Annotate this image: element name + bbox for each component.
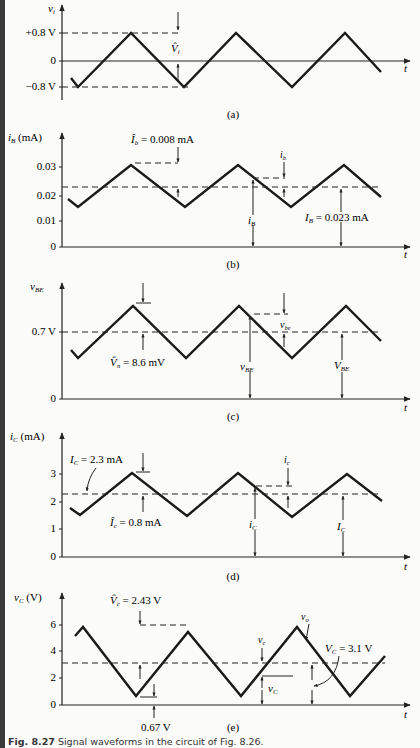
panel-d: iC (mA) 3 2 1 0 IC = 2.3 mA Îc = 0.8 mA …: [10, 430, 408, 583]
t-label-c: t: [404, 401, 408, 413]
tick-b-1: 0.02: [37, 189, 56, 201]
t-label-d: t: [404, 560, 408, 572]
tick-e-0: 6: [51, 618, 57, 630]
tick-e-2: 2: [51, 671, 57, 683]
Vc-peak-label: V̂c = 2.43 V: [110, 594, 161, 608]
tick-c-0: 0.7 V: [32, 325, 56, 337]
tick-a-2: −0.8 V: [26, 80, 57, 92]
panel-label-a: (a): [227, 108, 240, 121]
panel-label-e: (e): [227, 721, 240, 734]
tick-c-1: 0: [51, 392, 57, 404]
waveform-line: [70, 473, 382, 517]
vC-label: vC: [268, 682, 278, 696]
vbe-label: vbe: [280, 319, 291, 331]
tick-d-3: 0: [51, 550, 57, 562]
y-axis-label-a: vi: [48, 2, 55, 16]
vBE-label: vBE: [240, 360, 254, 374]
t-label-a: t: [404, 62, 408, 74]
VC-dc-label: VC = 3.1 V: [325, 642, 372, 656]
tick-b-2: 0.01: [37, 214, 56, 226]
panel-b: iB (mA) 0.03 0.02 0.01 0 Îb = 0.008 mA i…: [8, 131, 408, 271]
t-label-b: t: [404, 248, 408, 260]
y-axis-label-b: iB (mA): [8, 131, 42, 145]
vpi-label: V̂π = 8.6 mV: [110, 356, 165, 370]
signal-waveforms-figure: vi +0.8 V 0 −0.8 V V̂i t (a) iB (mA) 0.0…: [0, 0, 420, 748]
waveform-line: [71, 33, 381, 87]
vo-label: vo: [301, 611, 309, 623]
tick-a-1: 0: [51, 54, 57, 66]
ib-label: ib: [280, 149, 287, 161]
tick-b-0: 0.03: [37, 160, 57, 172]
panel-label-c: (c): [227, 410, 240, 423]
IC-dc-label: IC = 2.3 mA: [69, 453, 123, 467]
figure-caption: Fig. 8.27 Signal waveforms in the circui…: [8, 736, 264, 747]
min-value-label: 0.67 V: [141, 721, 171, 733]
tick-e-1: 4: [51, 644, 57, 656]
IC-label: IC: [336, 520, 346, 534]
caption-text: Signal waveforms in the circuit of Fig. …: [58, 736, 264, 747]
panel-label-d: (d): [227, 570, 240, 583]
waveform-line: [68, 165, 381, 207]
t-label-e: t: [404, 708, 408, 720]
caption-label: Fig. 8.27: [8, 736, 55, 747]
panel-e: vC (V) 6 4 2 0 V̂c = 2.43 V 0.67 V vo vc…: [14, 591, 408, 734]
ib-peak-label: Îb = 0.008 mA: [130, 133, 194, 147]
tick-b-3: 0: [51, 240, 57, 252]
y-axis-label-c: vBE: [30, 280, 44, 294]
panel-c: vBE 0.7 V 0 V̂π = 8.6 mV vbe vBE VBE t (…: [30, 280, 408, 423]
tick-d-0: 3: [51, 467, 57, 479]
tick-d-1: 2: [51, 495, 57, 507]
VBE-label: VBE: [334, 359, 350, 373]
y-axis-label-d: iC (mA): [10, 430, 45, 444]
panel-label-b: (b): [227, 258, 240, 271]
Ic-peak-label: Îc = 0.8 mA: [109, 516, 162, 530]
ic-label: ic: [284, 454, 290, 466]
tick-e-3: 0: [51, 698, 57, 710]
tick-a-0: +0.8 V: [26, 26, 57, 38]
vc-label: vc: [258, 634, 265, 646]
iC-label: iC: [249, 518, 257, 532]
y-axis-label-e: vC (V): [14, 591, 42, 605]
tick-d-2: 1: [51, 522, 57, 534]
vi-peak-label: V̂i: [171, 42, 180, 56]
iB-label: iB: [248, 214, 256, 228]
IB-label: IB = 0.023 mA: [304, 211, 369, 225]
